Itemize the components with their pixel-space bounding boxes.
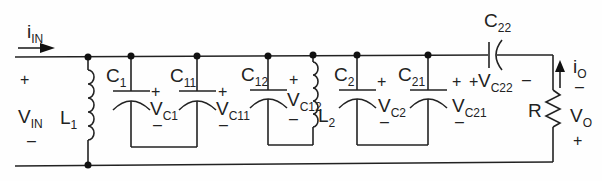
label-c11: C11 [170, 65, 197, 90]
node-dot [310, 52, 317, 59]
circuit-diagram: iIN + VIN – L1 C1 + VC1 – C11 + VC11 – C… [0, 0, 602, 181]
vc21-plus: + [452, 73, 461, 90]
vc11-minus: – [219, 116, 228, 133]
vin-minus: – [27, 132, 36, 149]
label-vc22: VC22 [478, 70, 513, 95]
label-c22: C22 [484, 10, 511, 35]
label-l2: L2 [318, 105, 336, 130]
node-dot [354, 52, 361, 59]
vo-plus: + [573, 132, 582, 149]
node-dot [128, 53, 135, 60]
vin-plus: + [20, 71, 29, 88]
vc2-plus: + [377, 73, 386, 90]
capacitor-c11 [179, 56, 216, 147]
vc12-plus: + [289, 71, 298, 88]
vc1-minus: – [153, 116, 162, 133]
label-i-in: iIN [27, 21, 43, 46]
node-dot [425, 52, 432, 59]
node-dot [265, 53, 272, 60]
output-current-arrow-icon [555, 60, 565, 88]
node-dot [85, 54, 92, 61]
node-dot [194, 53, 201, 60]
vc2-minus: – [380, 113, 389, 130]
node-dot [85, 162, 92, 169]
vc22-minus: – [522, 71, 531, 88]
vc12-minus: – [289, 110, 298, 127]
label-l1: L1 [60, 107, 78, 132]
label-r: R [528, 100, 542, 121]
inductor-l1 [88, 57, 94, 165]
vc21-minus: – [455, 113, 464, 130]
label-v-o: VO [570, 105, 592, 130]
vo-minus: – [575, 78, 584, 95]
bottom-rail-wire [15, 162, 553, 166]
label-c21: C21 [398, 64, 425, 89]
label-c1: C1 [106, 65, 127, 90]
label-c12: C12 [241, 64, 268, 89]
label-c2: C2 [334, 64, 355, 89]
capacitor-c12 [250, 56, 287, 145]
vc22-plus: + [469, 73, 478, 90]
capacitor-c21 [410, 55, 447, 145]
schematic: iIN + VIN – L1 C1 + VC1 – C11 + VC11 – C… [0, 0, 602, 181]
label-v-in: VIN [18, 106, 43, 131]
